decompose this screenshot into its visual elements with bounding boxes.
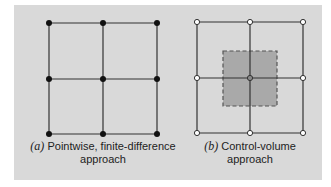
node-dot-icon xyxy=(100,76,106,82)
caption-a-line1: Pointwise, finite-difference xyxy=(47,140,175,152)
caption-a-line2: approach xyxy=(18,153,188,166)
node-dot-icon xyxy=(46,131,52,137)
node-dot-icon xyxy=(154,76,160,82)
node-circle-icon xyxy=(194,19,199,24)
node-circle-center-icon xyxy=(247,75,252,80)
node-dot-icon xyxy=(100,131,106,137)
node-circle-icon xyxy=(194,130,199,135)
caption-a: (a) Pointwise, finite-difference approac… xyxy=(18,140,188,166)
node-circle-icon xyxy=(300,130,305,135)
caption-b-line2: approach xyxy=(195,153,305,166)
node-circle-icon xyxy=(247,130,252,135)
caption-b-line1: Control-volume xyxy=(221,140,296,152)
caption-b: (b) Control-volume approach xyxy=(195,140,305,166)
node-circle-icon xyxy=(247,19,252,24)
caption-a-label: (a) xyxy=(30,139,44,153)
node-circle-icon xyxy=(194,75,199,80)
node-dot-icon xyxy=(154,131,160,137)
caption-b-label: (b) xyxy=(204,139,218,153)
node-circle-icon xyxy=(300,19,305,24)
node-dot-icon xyxy=(46,76,52,82)
node-dot-icon xyxy=(46,20,52,26)
node-dot-icon xyxy=(100,20,106,26)
node-dot-icon xyxy=(154,20,160,26)
node-circle-icon xyxy=(300,75,305,80)
